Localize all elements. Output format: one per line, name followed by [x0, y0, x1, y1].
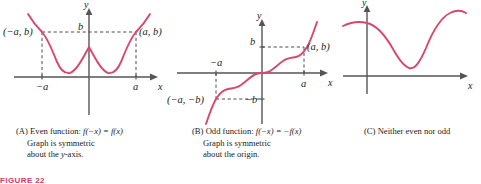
caption-b-line1: (B) Odd function: f(−x) = −f(x) — [192, 126, 368, 138]
caption-c-tag: (C) — [364, 126, 375, 136]
label-x-neg-a: −a — [36, 81, 48, 92]
caption-b-tag: (B) — [192, 126, 203, 136]
caption-a-formula: f(−x) = f(x) — [83, 126, 123, 136]
caption-a-text: Even function: — [30, 126, 81, 136]
caption-a-line3-post: -axis. — [65, 149, 84, 159]
axis-label-y: y — [256, 10, 262, 21]
label-x-a: a — [301, 78, 306, 89]
label-point-left-b: (−a, −b) — [167, 94, 204, 106]
label-y-value-neg-b: −b — [245, 94, 257, 105]
caption-b-line2: Graph is symmetric — [192, 138, 368, 150]
caption-a-line2: Graph is symmetric — [16, 138, 192, 150]
caption-odd-function: (B) Odd function: f(−x) = −f(x) Graph is… — [192, 126, 368, 161]
label-x-neg-a: −a — [210, 57, 222, 68]
y-axis — [259, 19, 266, 124]
caption-even-function: (A) Even function: f(−x) = f(x) Graph is… — [16, 126, 192, 161]
figure-even-odd-functions: (−a, b) (a, b) b −a a x y — [0, 0, 481, 184]
x-axis — [343, 73, 468, 80]
caption-a-line3-pre: about the — [27, 149, 61, 159]
axis-label-x: x — [467, 80, 473, 91]
panel-odd-function: (−a, −b) (a, b) b −b −a a x y — [165, 0, 340, 128]
figure-panels: (−a, b) (a, b) b −a a x y — [0, 0, 481, 128]
graph-neither-even-nor-odd: x y — [340, 0, 481, 128]
caption-b-formula: f(−x) = −f(x) — [256, 126, 302, 136]
caption-b-line3: about the origin. — [192, 149, 368, 161]
label-point-right-b: (a, b) — [307, 41, 330, 53]
y-axis — [364, 5, 371, 94]
caption-b-text: Odd function: — [206, 126, 254, 136]
label-point-right-a: (a, b) — [139, 26, 162, 38]
label-y-value-b: b — [250, 36, 255, 47]
axis-label-x: x — [157, 81, 163, 92]
caption-a-tag: (A) — [16, 126, 28, 136]
panel-neither-even-nor-odd: x y — [340, 0, 481, 128]
axis-label-y: y — [83, 0, 89, 10]
y-axis — [86, 8, 93, 115]
graph-odd-function: (−a, −b) (a, b) b −b −a a x y — [165, 0, 340, 128]
label-point-left-a: (−a, b) — [3, 26, 33, 38]
caption-c-line1: (C) Neither even nor odd — [364, 126, 480, 138]
panel-even-function: (−a, b) (a, b) b −a a x y — [0, 0, 170, 128]
caption-neither: (C) Neither even nor odd — [364, 126, 480, 138]
figure-captions: (A) Even function: f(−x) = f(x) Graph is… — [0, 126, 481, 176]
caption-c-text: Neither even nor odd — [378, 126, 451, 136]
label-x-a: a — [133, 81, 138, 92]
caption-a-line3: about the y-axis. — [16, 149, 192, 161]
axis-label-y: y — [361, 0, 367, 8]
label-y-value-b: b — [78, 21, 83, 32]
axis-label-x: x — [327, 77, 333, 88]
figure-number-label: FIGURE 22 — [0, 176, 90, 184]
caption-a-line1: (A) Even function: f(−x) = f(x) — [16, 126, 192, 138]
curve-neither — [343, 11, 466, 69]
graph-even-function: (−a, b) (a, b) b −a a x y — [0, 0, 170, 128]
